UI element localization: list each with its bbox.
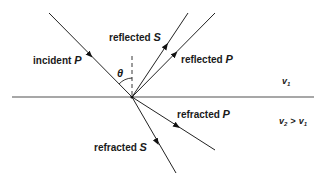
label-refracted-s: refracted S <box>94 141 148 153</box>
wave-reflection-refraction-diagram: incident P reflected S reflected P refra… <box>0 0 327 185</box>
label-theta: θ <box>117 67 123 79</box>
reflected-s-ray <box>132 13 188 97</box>
diagram-svg: incident P reflected S reflected P refra… <box>0 0 327 185</box>
label-v1: v1 <box>282 76 291 87</box>
label-refracted-p: refracted P <box>177 108 231 120</box>
refracted-s-ray <box>132 97 176 173</box>
label-v2-gt-v1: v2>v1 <box>279 116 308 127</box>
label-reflected-s: reflected S <box>109 31 161 43</box>
incidence-point <box>130 95 133 98</box>
label-incident-p: incident P <box>33 54 82 66</box>
label-reflected-p: reflected P <box>181 53 233 65</box>
